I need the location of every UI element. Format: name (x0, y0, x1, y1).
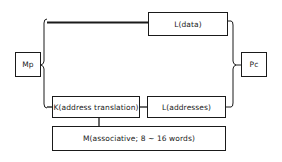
k-translation-node: K(address translation) (52, 96, 140, 118)
pc-label: Pc (250, 60, 259, 69)
left-brace (41, 19, 47, 108)
m-associative-label: M(associative; 8 ~ 16 words) (83, 134, 195, 143)
pc-node: Pc (241, 52, 267, 77)
mp-label: Mp (22, 60, 33, 69)
m-associative-node: M(associative; 8 ~ 16 words) (52, 126, 226, 151)
l-data-node: L(data) (148, 12, 228, 36)
k-translation-label: K(address translation) (53, 103, 138, 112)
l-data-label: L(data) (174, 20, 202, 29)
l-addresses-node: L(addresses) (147, 96, 226, 118)
l-addresses-label: L(addresses) (162, 103, 211, 112)
mp-node: Mp (15, 52, 41, 77)
